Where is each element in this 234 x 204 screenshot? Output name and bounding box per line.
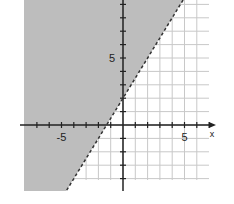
- x-axis-arrow-icon: [209, 122, 216, 128]
- x-tick-label-5: 5: [181, 131, 187, 143]
- inequality-plot: -5 5 5 x: [0, 0, 234, 204]
- shaded-region: [24, 0, 183, 191]
- x-axis-label: x: [210, 129, 215, 139]
- y-tick-label-5: 5: [109, 52, 115, 64]
- x-tick-label-neg5: -5: [57, 131, 67, 143]
